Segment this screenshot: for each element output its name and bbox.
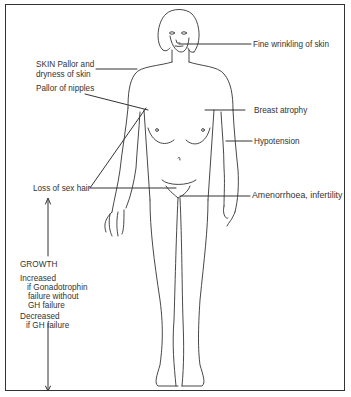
label-growth-heading: GROWTH — [20, 260, 57, 270]
label-skin-line1: SKIN Pallor and — [36, 60, 94, 70]
label-amenorrhoea: Amenorrhoea, infertility — [252, 191, 342, 201]
label-loss-sex-hair: Loss of sex hair — [33, 184, 90, 194]
label-increased-detail3: GH failure — [28, 301, 65, 311]
label-breast-atrophy: Breast atrophy — [254, 106, 307, 116]
label-skin-line2: dryness of skin — [36, 70, 91, 80]
label-decreased-detail: if GH failure — [26, 321, 69, 331]
label-hypotension: Hypotension — [254, 137, 300, 147]
label-pallor-nipples: Pallor of nipples — [36, 84, 94, 94]
label-fine-wrinkling: Fine wrinkling of skin — [253, 40, 329, 50]
